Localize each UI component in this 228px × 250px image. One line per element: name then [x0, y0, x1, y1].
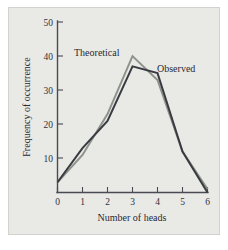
annotation-theoretical: Theoretical — [74, 47, 120, 58]
x-tick-label-4: 4 — [155, 197, 160, 207]
series-line-theoretical — [58, 56, 208, 189]
x-tick-label-2: 2 — [105, 197, 110, 207]
y-axis-tick-labels: 50 40 30 20 10 — [44, 18, 54, 164]
x-tick-label-0: 0 — [55, 197, 60, 207]
y-tick-label-10: 10 — [44, 154, 54, 164]
y-tick-label-30: 30 — [44, 86, 54, 96]
y-tick-label-50: 50 — [44, 18, 54, 28]
frequency-of-occurrence-line-chart: 50 40 30 20 10 0 1 2 3 4 5 6 Number of h… — [0, 0, 228, 250]
x-tick-label-3: 3 — [130, 197, 135, 207]
y-tick-label-40: 40 — [44, 52, 54, 62]
x-tick-label-1: 1 — [80, 197, 85, 207]
x-axis-ticks — [58, 187, 208, 193]
x-tick-label-6: 6 — [205, 197, 210, 207]
y-axis-title: Frequency of occurrence — [21, 57, 32, 157]
series-line-observed — [58, 66, 208, 192]
x-axis-title: Number of heads — [98, 212, 167, 223]
annotation-observed: Observed — [157, 63, 195, 74]
x-tick-label-5: 5 — [180, 197, 185, 207]
y-axis-ticks — [58, 22, 64, 158]
y-tick-label-20: 20 — [44, 120, 54, 130]
figure-container: 50 40 30 20 10 0 1 2 3 4 5 6 Number of h… — [0, 0, 228, 250]
x-axis-tick-labels: 0 1 2 3 4 5 6 — [55, 197, 210, 207]
